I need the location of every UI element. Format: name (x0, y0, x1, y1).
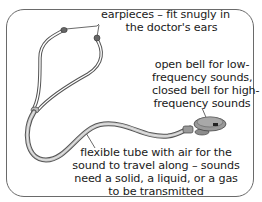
right-binaural-tube (38, 38, 101, 110)
earpiece-tips (61, 27, 100, 41)
bell-label-line-1: open bell for low- (152, 58, 252, 71)
earpieces-label-line-2: the doctor's ears (101, 21, 230, 34)
bell-label: open bell for low- frequency sounds, clo… (152, 58, 252, 110)
earpieces-label-line-1: earpieces – fit snugly in (101, 8, 230, 21)
earpiece-left-leader (66, 26, 97, 29)
tube-label: flexible tube with air for the sound to … (60, 146, 252, 198)
chest-piece-bell-icon (183, 117, 226, 135)
bell-label-line-2: frequency sounds, (152, 71, 252, 84)
bell-label-line-4: frequency sounds (152, 97, 252, 110)
tube-label-line-2: sound to travel along – sounds (60, 159, 252, 172)
earpiece-left-icon (61, 27, 67, 32)
tube-label-line-3: need a solid, a liquid, or a gas (60, 172, 252, 185)
left-binaural-tube (34, 30, 64, 108)
tube-label-line-1: flexible tube with air for the (60, 146, 252, 159)
earpiece-right-icon (94, 35, 100, 41)
tube-label-line-4: to be transmitted (60, 185, 252, 198)
earpieces-label: earpieces – fit snugly in the doctor's e… (101, 8, 230, 34)
bell-label-line-3: closed bell for high- (152, 84, 252, 97)
